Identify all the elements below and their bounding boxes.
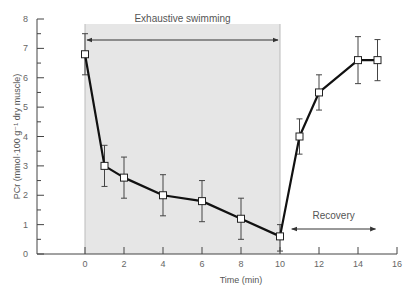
data-point xyxy=(121,174,128,181)
y-tick-label: 7 xyxy=(23,43,28,53)
x-tick-label: 12 xyxy=(314,259,324,269)
x-tick-label: 10 xyxy=(275,259,285,269)
x-tick-label: 8 xyxy=(238,259,243,269)
x-axis-title: Time (min) xyxy=(220,275,263,285)
shaded-exercise-region xyxy=(85,24,280,254)
x-tick-label: 6 xyxy=(199,259,204,269)
data-point xyxy=(296,133,303,140)
x-tick-label: 0 xyxy=(82,259,87,269)
data-point xyxy=(238,215,245,222)
x-tick-label: 14 xyxy=(353,259,363,269)
annotation-label: Exhaustive swimming xyxy=(134,13,230,24)
y-tick-label: 8 xyxy=(23,14,28,24)
y-tick-label: 2 xyxy=(23,190,28,200)
data-point xyxy=(160,192,167,199)
data-point xyxy=(199,198,206,205)
y-tick-label: 1 xyxy=(23,220,28,230)
data-point xyxy=(82,51,89,58)
y-tick-label: 4 xyxy=(23,132,28,142)
data-point xyxy=(101,162,108,169)
y-tick-label: 5 xyxy=(23,102,28,112)
data-point xyxy=(355,57,362,64)
pcr-chart: 0123456780246810121416 Exhaustive swimmi… xyxy=(0,0,418,301)
x-tick-label: 16 xyxy=(392,259,402,269)
y-axis-title: PCr (mmol·100 g⁻¹ dry muscle) xyxy=(12,74,22,200)
x-tick-label: 4 xyxy=(160,259,165,269)
data-point xyxy=(374,57,381,64)
y-tick-label: 6 xyxy=(23,73,28,83)
x-tick-label: 2 xyxy=(121,259,126,269)
data-point xyxy=(316,89,323,96)
annotation-label: Recovery xyxy=(313,210,355,221)
y-tick-label: 3 xyxy=(23,161,28,171)
data-point xyxy=(277,233,284,240)
y-tick-label: 0 xyxy=(23,249,28,259)
